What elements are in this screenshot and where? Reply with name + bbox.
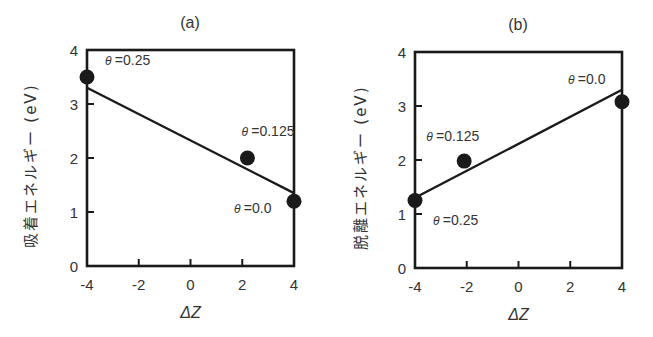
y-tick-label: 3	[70, 96, 78, 113]
x-tick-label: 2	[238, 276, 246, 293]
y-tick-label: 0	[70, 258, 78, 275]
data-point	[287, 194, 302, 209]
x-tick-label: 0	[186, 276, 194, 293]
y-tick-label: 3	[398, 98, 406, 115]
point-annotation: θ =0.125	[426, 128, 479, 144]
y-tick-label: 0	[398, 260, 406, 277]
chart-panel-b: (b)01234-4-2024ΔZ脱離エネルギー (eV)θ =0.25θ =0…	[352, 16, 630, 323]
data-point	[240, 151, 255, 166]
data-point	[457, 154, 472, 169]
point-annotation: θ =0.0	[568, 71, 606, 87]
y-axis-label: 吸着エネルギー (eV)	[22, 84, 40, 249]
x-tick-label: -2	[460, 278, 473, 295]
x-tick-label: 2	[566, 278, 574, 295]
point-annotation: θ =0.0	[234, 200, 272, 216]
point-annotation: θ =0.25	[433, 212, 478, 228]
y-axis-label: 脱離エネルギー (eV)	[352, 86, 370, 251]
x-tick-label: -4	[80, 276, 93, 293]
data-point	[80, 70, 95, 85]
point-annotation: θ =0.25	[105, 52, 150, 68]
y-tick-label: 2	[70, 150, 78, 167]
chart-title: (b)	[508, 16, 528, 33]
x-tick-label: -4	[408, 278, 421, 295]
y-tick-label: 1	[70, 204, 78, 221]
data-point	[615, 94, 630, 109]
x-tick-label: 4	[618, 278, 626, 295]
y-tick-label: 2	[398, 152, 406, 169]
x-axis-label: ΔZ	[179, 304, 202, 321]
y-tick-label: 4	[70, 42, 78, 59]
fit-line	[87, 88, 294, 193]
figure-canvas: (a)01234-4-2024ΔZ吸着エネルギー (eV)θ =0.25θ =0…	[0, 0, 653, 337]
x-tick-label: -2	[132, 276, 145, 293]
y-tick-label: 4	[398, 44, 406, 61]
x-tick-label: 4	[290, 276, 298, 293]
point-annotation: θ =0.125	[241, 123, 294, 139]
x-axis-label: ΔZ	[507, 306, 530, 323]
x-tick-label: 0	[514, 278, 522, 295]
chart-title: (a)	[180, 14, 200, 31]
data-point	[408, 193, 423, 208]
y-tick-label: 1	[398, 206, 406, 223]
chart-panel-a: (a)01234-4-2024ΔZ吸着エネルギー (eV)θ =0.25θ =0…	[22, 14, 302, 321]
plot-frame	[87, 50, 294, 266]
